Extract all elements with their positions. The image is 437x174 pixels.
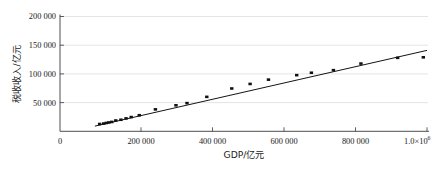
scatter-point bbox=[267, 78, 270, 81]
scatter-point bbox=[359, 62, 362, 65]
scatter-point bbox=[174, 104, 177, 107]
chart-figure: 200 000 150 000 100 000 50 000 0 200 000… bbox=[0, 0, 437, 174]
scatter-point bbox=[248, 83, 251, 86]
y-tick-labels: 200 000 150 000 100 000 50 000 bbox=[29, 12, 56, 107]
scatter-point bbox=[107, 121, 110, 124]
x-tick-label-1e6-exponent: 6 bbox=[428, 135, 431, 141]
x-tick-label-600000: 600 000 bbox=[270, 137, 297, 146]
x-tick-label-800000: 800 000 bbox=[342, 137, 369, 146]
axes bbox=[60, 15, 429, 132]
scatter-point bbox=[295, 74, 298, 77]
scatter-point bbox=[114, 119, 117, 122]
y-tick-label-50000: 50 000 bbox=[33, 99, 56, 108]
scatter-point bbox=[396, 57, 399, 60]
scatter-point bbox=[138, 114, 141, 117]
regression-fit-line bbox=[95, 50, 427, 126]
scatter-point bbox=[185, 102, 188, 105]
scatter-point bbox=[110, 121, 113, 124]
scatter-point bbox=[154, 108, 157, 111]
scatter-point bbox=[310, 71, 313, 74]
gridlines bbox=[60, 17, 428, 103]
scatter-point bbox=[119, 118, 122, 121]
x-axis-label: GDP/亿元 bbox=[224, 149, 265, 160]
x-tick-label-0: 0 bbox=[58, 137, 62, 146]
scatter-plot-svg: 200 000 150 000 100 000 50 000 0 200 000… bbox=[0, 0, 437, 174]
scatter-point bbox=[124, 117, 127, 120]
scatter-point bbox=[130, 116, 133, 119]
scatter-points-layer bbox=[98, 56, 425, 125]
x-tick-label-200000: 200 000 bbox=[127, 137, 154, 146]
y-tick-label-100000: 100 000 bbox=[29, 70, 56, 79]
scatter-point bbox=[332, 69, 335, 72]
x-tick-label-1e6-base: 1.0×10 bbox=[404, 137, 428, 146]
scatter-point bbox=[422, 56, 425, 59]
y-axis-label: 税收收入/亿元 bbox=[11, 45, 22, 102]
x-tick-label-1e6: 1.0×106 bbox=[404, 135, 431, 146]
scatter-point bbox=[98, 123, 101, 126]
y-tick-label-200000: 200 000 bbox=[29, 12, 56, 21]
x-tick-marks bbox=[141, 127, 427, 131]
y-tick-label-150000: 150 000 bbox=[29, 41, 56, 50]
scatter-point bbox=[205, 96, 208, 99]
x-tick-label-400000: 400 000 bbox=[199, 137, 226, 146]
y-tick-marks bbox=[60, 17, 64, 103]
scatter-point bbox=[230, 87, 233, 90]
x-tick-labels: 0 200 000 400 000 600 000 800 000 1.0×10… bbox=[58, 135, 431, 146]
